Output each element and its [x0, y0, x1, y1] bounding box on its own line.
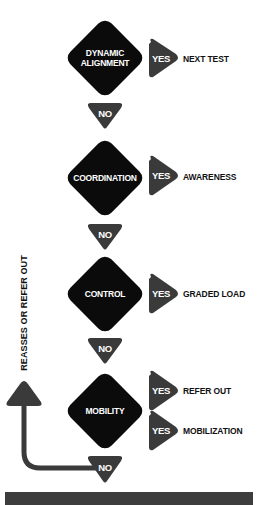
no-label: NO — [98, 462, 112, 473]
question-label-control: CONTROL — [65, 289, 145, 299]
loop-back-label: REASSES OR REFER OUT — [19, 255, 29, 371]
question-label-coordination: COORDINATION — [65, 173, 145, 183]
outcome-graded-load: GRADED LOAD — [183, 289, 245, 299]
yes-label: YES — [152, 385, 170, 396]
flowchart: DYNAMIC ALIGNMENT YES NEXT TEST NO COORD… — [0, 0, 261, 505]
no-label: NO — [98, 229, 112, 240]
no-label: NO — [98, 343, 112, 354]
outcome-awareness: AWARENESS — [183, 172, 236, 182]
yes-label: YES — [152, 53, 170, 64]
loop-back-arrowhead-icon — [6, 381, 41, 406]
question-label-dynamic-alignment: DYNAMIC ALIGNMENT — [65, 48, 145, 68]
outcome-refer-out: REFER OUT — [183, 386, 231, 396]
question-label-mobility: MOBILITY — [65, 406, 145, 416]
no-label: NO — [98, 108, 112, 119]
yes-label: YES — [152, 425, 170, 436]
footer-bar — [5, 492, 253, 505]
yes-label: YES — [152, 170, 170, 181]
outcome-mobilization: MOBILIZATION — [183, 426, 243, 436]
yes-label: YES — [152, 288, 170, 299]
outcome-next-test: NEXT TEST — [183, 54, 229, 64]
